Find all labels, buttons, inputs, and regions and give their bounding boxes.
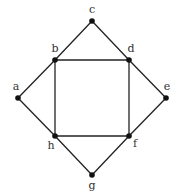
edge-b-c bbox=[55, 21, 92, 60]
graph-diagram: abcdefgh bbox=[0, 0, 178, 196]
node-label-f: f bbox=[133, 137, 138, 150]
node-label-h: h bbox=[47, 139, 54, 152]
node-label-a: a bbox=[13, 80, 20, 93]
node-label-e: e bbox=[164, 80, 171, 93]
edge-h-a bbox=[18, 98, 55, 136]
node-label-d: d bbox=[127, 42, 134, 55]
node-label-g: g bbox=[88, 179, 95, 192]
edge-f-g bbox=[92, 136, 129, 175]
labels-group: abcdefgh bbox=[13, 3, 171, 192]
node-b bbox=[52, 57, 58, 63]
edge-a-b bbox=[18, 60, 55, 98]
node-d bbox=[126, 57, 132, 63]
node-e bbox=[163, 95, 169, 101]
node-f bbox=[126, 133, 132, 139]
edge-g-h bbox=[55, 136, 92, 175]
node-label-b: b bbox=[51, 42, 58, 55]
edge-e-f bbox=[129, 98, 166, 136]
edges-group bbox=[18, 21, 166, 175]
node-g bbox=[89, 172, 95, 178]
edge-c-d bbox=[92, 21, 129, 60]
nodes-group bbox=[15, 18, 169, 178]
node-label-c: c bbox=[89, 3, 95, 16]
node-a bbox=[15, 95, 21, 101]
node-h bbox=[52, 133, 58, 139]
edge-d-e bbox=[129, 60, 166, 98]
node-c bbox=[89, 18, 95, 24]
